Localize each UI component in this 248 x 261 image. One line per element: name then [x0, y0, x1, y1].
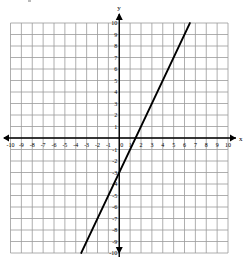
y-tick-label: -10	[109, 250, 117, 256]
y-tick-label: -6	[112, 204, 117, 210]
y-tick-label: 4	[114, 89, 117, 95]
y-tick-label: -1	[112, 147, 117, 153]
x-tick-label: -4	[73, 142, 78, 148]
x-tick-label: 8	[205, 142, 208, 148]
x-tick-label: -3	[84, 142, 89, 148]
y-tick-label: 7	[114, 55, 117, 61]
y-axis-label: y	[117, 4, 121, 12]
x-tick-label: -9	[19, 142, 24, 148]
x-tick-label: -5	[62, 142, 67, 148]
x-tick-label: 9	[216, 142, 219, 148]
y-tick-label: -9	[112, 239, 117, 245]
y-tick-label: 10	[111, 20, 117, 26]
x-tick-label: -2	[95, 142, 100, 148]
y-tick-label: 9	[114, 32, 117, 38]
x-tick-label: 5	[172, 142, 175, 148]
y-tick-label: -2	[112, 158, 117, 164]
x-tick-label: -1	[106, 142, 111, 148]
y-tick-label: 2	[114, 112, 117, 118]
y-tick-label: -3	[112, 170, 117, 176]
x-tick-label: -7	[41, 142, 46, 148]
x-tick-label: 10	[225, 142, 231, 148]
y-tick-label: 6	[114, 66, 117, 72]
y-tick-label: 1	[114, 124, 117, 130]
x-tick-label: 6	[183, 142, 186, 148]
x-tick-label: -10	[7, 142, 15, 148]
x-tick-label: 7	[194, 142, 197, 148]
x-tick-label: 3	[150, 142, 153, 148]
y-tick-label: 8	[114, 43, 117, 49]
y-tick-label: -5	[112, 193, 117, 199]
arrow-up-icon	[116, 13, 123, 20]
arrow-left-icon	[3, 135, 9, 142]
x-tick-label: 4	[161, 142, 164, 148]
x-tick-label: 2	[140, 142, 143, 148]
arrow-right-icon	[230, 135, 236, 142]
x-tick-label: -8	[30, 142, 35, 148]
x-tick-label: 0	[120, 142, 123, 148]
y-tick-label: 3	[114, 101, 117, 107]
y-tick-label: -8	[112, 227, 117, 233]
y-tick-label: -7	[112, 216, 117, 222]
y-tick-label: 5	[114, 78, 117, 84]
x-tick-label: -6	[52, 142, 57, 148]
coordinate-plane: xy-10-9-8-7-6-5-4-3-2-1012345678910-10-9…	[0, 0, 248, 261]
x-axis-label: x	[239, 135, 243, 143]
